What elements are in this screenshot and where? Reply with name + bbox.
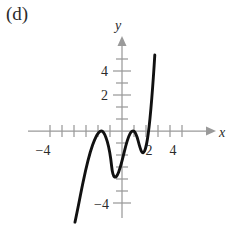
y-tick-label-2: 2 [101, 88, 108, 103]
y-axis-arrow-icon [118, 36, 127, 46]
figure-panel: (d) [0, 0, 236, 225]
panel-label: (d) [6, 4, 28, 23]
y-tick-label--4: −4 [94, 197, 109, 212]
x-tick-label-4: 4 [170, 143, 177, 158]
y-axis [113, 36, 131, 218]
y-tick-label-4: 4 [101, 64, 108, 79]
x-axis-arrow-icon [206, 127, 216, 136]
x-tick-label--4: −4 [36, 143, 51, 158]
curve-polynomial [75, 55, 155, 222]
y-axis-label: y [113, 18, 122, 33]
x-axis-label: x [218, 125, 226, 140]
graph-plot: y x 4 2 −4 −4 2 4 [0, 0, 236, 225]
x-tick-label-2: 2 [146, 143, 153, 158]
